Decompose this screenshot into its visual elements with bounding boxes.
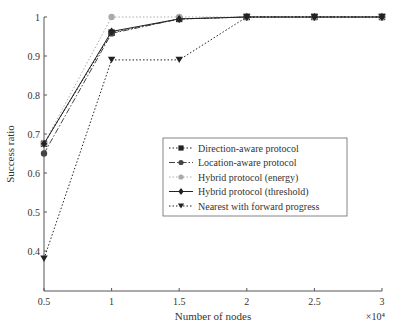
- x-tick-label: 1.5: [173, 296, 186, 307]
- series-line: [44, 17, 382, 144]
- series-line: [44, 17, 382, 144]
- circle-marker: [108, 14, 114, 20]
- circle-marker: [41, 150, 47, 156]
- legend-label: Direction-aware protocol: [198, 143, 299, 154]
- y-tick-label: 0.8: [28, 90, 41, 101]
- legend-label: Hybrid protocol (threshold): [198, 186, 309, 198]
- x-axis-label: Number of nodes: [175, 310, 251, 322]
- legend-label: Location-aware protocol: [198, 157, 297, 168]
- x-tick-label: 2.5: [308, 296, 321, 307]
- y-tick-label: 0.9: [28, 51, 41, 62]
- y-tick-label: 0.7: [28, 129, 41, 140]
- triangle-down-marker: [108, 57, 115, 63]
- circle-marker: [178, 160, 183, 165]
- y-tick-label: 0.5: [28, 207, 41, 218]
- x-tick-label: 1: [109, 296, 114, 307]
- triangle-down-marker: [176, 57, 183, 63]
- series-lines: [40, 13, 385, 262]
- series: [41, 13, 385, 148]
- series: [41, 14, 385, 157]
- legend-label: Hybrid protocol (energy): [198, 172, 298, 184]
- series: [41, 14, 385, 147]
- x-tick-label: 0.5: [38, 296, 51, 307]
- line-chart: 0.511.522.530.40.50.60.70.80.91 Directio…: [0, 0, 398, 333]
- circle-marker: [178, 174, 183, 179]
- y-axis-label: Success ratio: [4, 125, 16, 183]
- square-marker: [178, 145, 183, 150]
- y-tick-label: 0.4: [28, 246, 41, 257]
- legend-label: Nearest with forward progress: [198, 201, 319, 212]
- series-line: [44, 17, 382, 154]
- series-line: [44, 17, 382, 144]
- x-multiplier: ×10⁴: [366, 311, 386, 322]
- x-tick-label: 3: [380, 296, 385, 307]
- y-tick-label: 1: [35, 12, 40, 23]
- triangle-down-marker: [40, 256, 47, 262]
- x-tick-label: 2: [244, 296, 249, 307]
- y-tick-label: 0.6: [28, 168, 41, 179]
- series: [41, 14, 385, 147]
- legend: Direction-aware protocolLocation-aware p…: [163, 138, 347, 216]
